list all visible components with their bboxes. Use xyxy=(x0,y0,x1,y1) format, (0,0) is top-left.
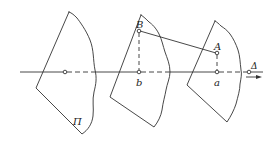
point-axis-plane-pi xyxy=(63,70,67,74)
point-a xyxy=(215,70,219,74)
label-B: B xyxy=(135,19,143,30)
label-plane-pi: Π xyxy=(72,116,82,127)
axis-direction-arrow-icon xyxy=(246,75,262,79)
label-A: A xyxy=(213,41,221,52)
plane-right xyxy=(187,21,241,122)
diagram-canvas: Π B b A a Δ xyxy=(0,0,278,142)
rotation-axis-diagram: Π B b A a Δ xyxy=(0,0,278,142)
point-b xyxy=(137,70,141,74)
label-b: b xyxy=(136,77,142,88)
segment-BA xyxy=(140,31,216,53)
label-axis-delta: Δ xyxy=(250,61,258,71)
label-a: a xyxy=(214,77,220,88)
